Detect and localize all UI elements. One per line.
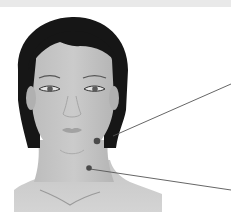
jaw-point-marker[interactable] [94, 138, 101, 145]
right-ear [109, 86, 119, 110]
face-diagram [0, 0, 231, 223]
leader-line-jaw [113, 84, 231, 136]
neck-point-marker[interactable] [86, 165, 92, 171]
left-ear [26, 86, 36, 110]
left-iris [47, 86, 53, 92]
right-iris [92, 86, 98, 92]
